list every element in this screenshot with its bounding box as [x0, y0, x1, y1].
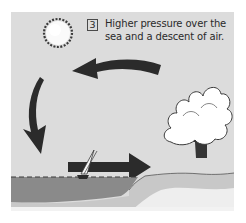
- descending-arrow-icon: [23, 77, 46, 154]
- sun-icon: [44, 19, 72, 47]
- step-number-badge: 3: [87, 19, 98, 31]
- top-arrow-left-icon: [72, 58, 161, 79]
- cumulus-cloud-icon: [164, 87, 232, 144]
- bottom-strip: [11, 207, 234, 211]
- caption-line-1: Higher pressure over the: [105, 18, 226, 29]
- caption-line-2: sea and a descent of air.: [105, 31, 224, 42]
